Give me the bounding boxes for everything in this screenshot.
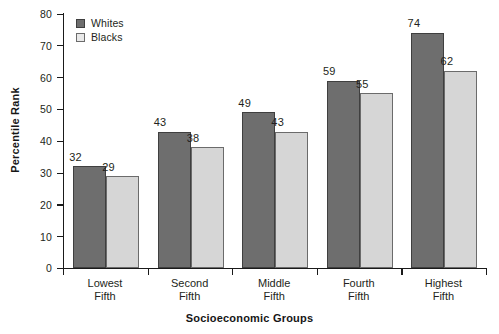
bar-value-blacks-highest-fifth: 62 [424,55,469,67]
y-tick-mark-50 [57,109,63,110]
x-group-label-line1: Second [145,277,235,290]
y-tick-label-0: 0 [30,262,52,274]
x-axis-title: Socioeconomic Groups [0,312,499,324]
x-tick-mark-2 [232,268,233,275]
y-tick-mark-80 [57,14,63,15]
x-group-label-line2: Fifth [145,290,235,303]
bar-value-whites-fourth-fifth: 59 [307,65,352,77]
plot-area [64,14,487,268]
legend-swatch-icon-blacks [76,33,85,42]
bar-whites-highest-fifth[interactable] [411,33,444,268]
x-group-label-line2: Fifth [314,290,404,303]
bar-value-blacks-fourth-fifth: 55 [340,78,385,90]
x-group-label-second-fifth: Second Fifth [145,277,235,303]
x-group-label-lowest-fifth: Lowest Fifth [60,277,150,303]
x-group-label-line1: Middle [229,277,319,290]
bar-whites-second-fifth[interactable] [158,132,191,269]
legend-swatch-icon-whites [76,19,85,28]
bar-value-blacks-lowest-fifth: 29 [86,161,131,173]
y-tick-label-60: 60 [30,72,52,84]
bar-value-blacks-middle-fifth: 43 [255,116,300,128]
x-tick-mark-5 [486,268,487,275]
y-tick-mark-70 [57,45,63,46]
y-tick-mark-20 [57,204,63,205]
bar-whites-lowest-fifth[interactable] [73,166,106,268]
y-tick-label-10: 10 [30,231,52,243]
y-tick-label-30: 30 [30,167,52,179]
legend-label-blacks: Blacks [91,31,123,43]
legend-item-whites[interactable]: Whites [76,16,124,30]
y-tick-label-50: 50 [30,103,52,115]
y-axis-title: Percentile Rank [9,70,21,190]
legend-label-whites: Whites [91,17,124,29]
y-tick-label-80: 80 [30,8,52,20]
x-tick-mark-0 [63,268,64,275]
bar-value-whites-highest-fifth: 74 [391,17,436,29]
bar-value-whites-second-fifth: 43 [138,116,183,128]
y-tick-mark-30 [57,173,63,174]
x-group-label-line1: Lowest [60,277,150,290]
bar-whites-fourth-fifth[interactable] [327,81,360,268]
bar-blacks-highest-fifth[interactable] [444,71,477,268]
bar-blacks-lowest-fifth[interactable] [106,176,139,268]
y-tick-label-40: 40 [30,135,52,147]
x-group-label-fourth-fifth: Fourth Fifth [314,277,404,303]
bar-value-whites-middle-fifth: 49 [222,97,267,109]
y-tick-label-20: 20 [30,199,52,211]
x-tick-mark-1 [148,268,149,275]
bar-value-blacks-second-fifth: 38 [171,132,216,144]
bar-blacks-middle-fifth[interactable] [275,132,308,269]
y-tick-mark-40 [57,141,63,142]
x-group-label-middle-fifth: Middle Fifth [229,277,319,303]
bar-blacks-fourth-fifth[interactable] [360,93,393,268]
x-group-label-line2: Fifth [398,290,488,303]
y-tick-mark-10 [57,236,63,237]
y-tick-label-70: 70 [30,40,52,52]
x-group-label-line2: Fifth [60,290,150,303]
x-group-label-line2: Fifth [229,290,319,303]
bar-blacks-second-fifth[interactable] [191,147,224,268]
x-group-label-line1: Highest [398,277,488,290]
bar-chart: 80 70 60 50 40 30 20 10 0 32 29 43 38 49… [0,0,499,334]
legend: Whites Blacks [76,16,124,44]
x-tick-mark-4 [401,268,402,275]
x-group-label-highest-fifth: Highest Fifth [398,277,488,303]
x-group-label-line1: Fourth [314,277,404,290]
x-tick-mark-3 [317,268,318,275]
legend-item-blacks[interactable]: Blacks [76,30,124,44]
bar-whites-middle-fifth[interactable] [242,112,275,268]
y-tick-mark-60 [57,77,63,78]
